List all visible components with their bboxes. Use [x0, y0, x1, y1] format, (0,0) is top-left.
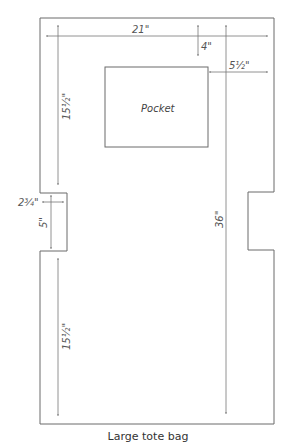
- diagram-caption: Large tote bag: [0, 430, 296, 443]
- bag-outline: [40, 18, 274, 424]
- notch-depth-label: 2¾": [18, 197, 39, 208]
- notch-height-label: 5": [38, 217, 49, 228]
- pocket-label: Pocket: [141, 103, 176, 114]
- upper-side-label: 15½": [61, 93, 72, 120]
- tote-bag-pattern: 21" 4" 5½" Pocket 15½" 2¾" 5" 36" 15½": [0, 0, 296, 448]
- pocket-right-label: 5½": [229, 60, 250, 71]
- width-label: 21": [132, 24, 149, 35]
- total-height-label: 36": [214, 211, 225, 228]
- pocket-top-label: 4": [201, 41, 212, 52]
- lower-side-label: 15½": [61, 323, 72, 350]
